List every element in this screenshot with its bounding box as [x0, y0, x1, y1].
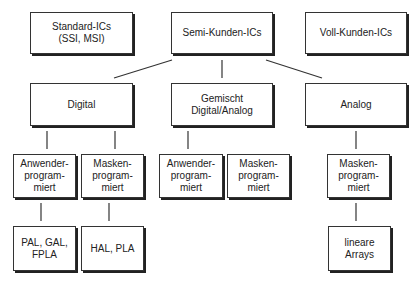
gemischt-anwender-box: Anwender- program- miert — [159, 154, 223, 198]
digital-masken-box: Masken- program- miert — [81, 154, 144, 198]
gemischt-masken-box: Masken- program- miert — [227, 154, 290, 198]
analog-box: Analog — [305, 83, 407, 126]
voll-kunden-ics-box: Voll-Kunden-ICs — [305, 12, 407, 54]
digital-anwender-box: Anwender- program- miert — [13, 154, 76, 198]
pal-gal-fpla-box: PAL, GAL, FPLA — [13, 226, 76, 271]
semi-kunden-ics-box: Semi-Kunden-ICs — [171, 12, 273, 54]
digital-box: Digital — [30, 83, 133, 126]
gemischt-box: Gemischt Digital/Analog — [171, 83, 273, 126]
hal-pla-box: HAL, PLA — [81, 226, 144, 271]
analog-masken-box: Masken- program- miert — [327, 154, 390, 198]
standard-ics-box: Standard-ICs (SSI, MSI) — [30, 12, 133, 54]
lineare-arrays-box: lineare Arrays — [328, 226, 391, 271]
